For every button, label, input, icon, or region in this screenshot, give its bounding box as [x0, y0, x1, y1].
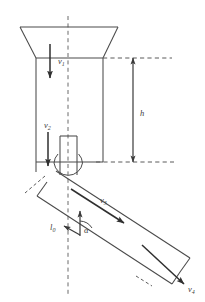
label-h: h [140, 108, 144, 118]
diagram-root: v1 v2 v3 v4 h l0 α [0, 0, 205, 302]
hopper-chute-diagram: v1 v2 v3 v4 h l0 α [0, 0, 205, 302]
label-alpha: α [84, 225, 89, 235]
